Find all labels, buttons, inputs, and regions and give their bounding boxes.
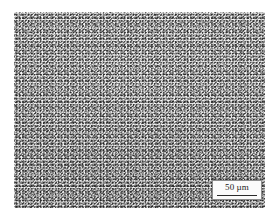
scale-bar-rule xyxy=(217,195,257,196)
micrograph-image: 50 µm xyxy=(14,12,265,208)
figure-root: 50 µm xyxy=(0,0,277,222)
micrograph-tone-layer xyxy=(14,12,265,208)
scale-bar: 50 µm xyxy=(212,180,262,200)
scale-bar-label: 50 µm xyxy=(225,182,249,193)
